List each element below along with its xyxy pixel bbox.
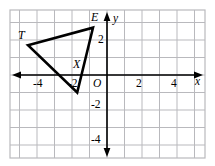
origin-label: O (93, 78, 101, 90)
vertex-label-x: X (73, 58, 80, 70)
y-axis-label: y (113, 13, 118, 25)
x-tick-label-pos2: 2 (136, 78, 142, 90)
vertex-label-t: T (18, 29, 25, 41)
y-tick-label-neg4: -4 (91, 134, 101, 146)
y-tick-label-neg2: -2 (91, 99, 101, 111)
coordinate-plane-figure: T E X y x O -4 -2 2 4 2 -2 -4 (0, 0, 215, 166)
y-tick-label-pos2: 2 (98, 34, 104, 46)
x-tick-label-neg2: -2 (68, 78, 78, 90)
x-axis-label: x (195, 76, 200, 88)
x-tick-label-pos4: 4 (171, 78, 177, 90)
vertex-label-e: E (91, 11, 98, 23)
x-tick-label-neg4: -4 (33, 78, 43, 90)
